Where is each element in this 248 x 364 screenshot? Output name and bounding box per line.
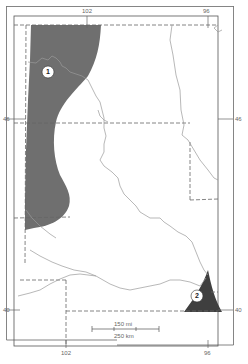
latitude-label-left-46: 46	[3, 116, 10, 122]
region-2-label: 2	[195, 293, 199, 299]
latitude-label-left-40: 40	[3, 307, 10, 313]
region-2-shaded-area	[184, 270, 222, 312]
scale-bar-km-label: 250 km	[114, 333, 134, 339]
longitude-label-bottom-96: 96	[204, 350, 211, 356]
map-canvas	[0, 0, 248, 364]
region-1-shaded-area	[25, 25, 101, 230]
latitude-label-right-40: 40	[235, 307, 242, 313]
longitude-label-top-102: 102	[82, 8, 92, 14]
longitude-label-top-96: 96	[203, 8, 210, 14]
scale-bar-miles-label: 150 mi	[114, 321, 132, 327]
latitude-label-right-46: 46	[235, 116, 242, 122]
region-1-label: 1	[46, 69, 50, 75]
longitude-label-bottom-102: 102	[61, 350, 71, 356]
